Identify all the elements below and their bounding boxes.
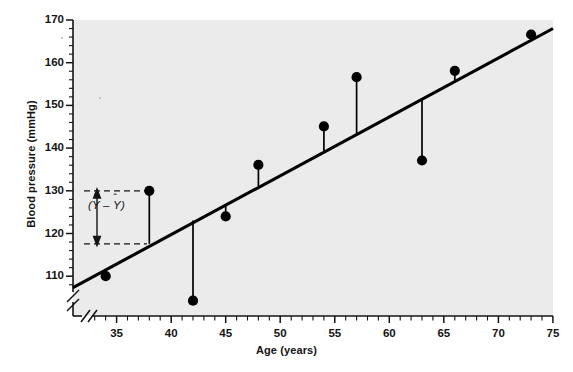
residual-annotation-label: (Y – Y): [88, 199, 125, 211]
x-tick-label: 65: [424, 328, 464, 340]
x-tick-label: 40: [151, 328, 191, 340]
x-tick-label: 35: [97, 328, 137, 340]
x-tick-label: 70: [478, 328, 518, 340]
blood-pressure-regression-figure: 170 160 150 140 130 120 110 35 40 45 50 …: [0, 0, 573, 372]
x-tick-label: 50: [260, 328, 300, 340]
x-axis-tick-labels: 35 40 45 50 55 60 65 70 75: [0, 0, 573, 372]
x-tick-label: 60: [369, 328, 409, 340]
x-tick-label: 45: [206, 328, 246, 340]
x-tick-label: 55: [315, 328, 355, 340]
y-axis-title: Blood pressure (mmHg): [25, 54, 37, 274]
x-axis-title: Age (years): [0, 344, 573, 356]
residual-minus-sign: –: [100, 199, 113, 211]
residual-y-observed: Y: [92, 199, 100, 211]
residual-paren-close: ): [121, 199, 125, 211]
residual-y-hat: Y: [113, 199, 121, 211]
x-tick-label: 75: [533, 328, 573, 340]
